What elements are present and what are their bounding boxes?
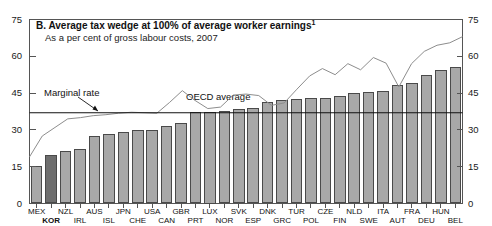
y-axis-label-right-75: 75 (468, 15, 488, 25)
y-axis-tick-0-right (457, 203, 463, 204)
bar-can (161, 126, 173, 203)
x-axis-label-kor: KOR (42, 216, 60, 225)
bar-deu (421, 75, 433, 203)
bar-aus (89, 136, 101, 204)
x-axis-tick-fin (339, 204, 340, 208)
chart-panel: 75 60 45 30 15 0 75 60 45 30 15 0 B. Ave… (0, 0, 492, 226)
x-axis-tick-nor (224, 204, 225, 208)
y-axis-label-right-0: 0 (468, 199, 488, 209)
y-axis-tick-0-left (30, 203, 36, 204)
y-axis-label-left-15: 15 (2, 162, 22, 172)
x-axis-label-gbr: GBR (172, 207, 189, 216)
x-axis-label-cze: CZE (317, 207, 333, 216)
x-axis-tick-swe (368, 204, 369, 208)
x-axis-label-aus: AUS (86, 207, 102, 216)
marginal-rate-annotation: Marginal rate (44, 87, 99, 98)
x-axis-label-fin: FIN (333, 216, 346, 225)
bar-pol (305, 98, 317, 203)
x-axis-label-nor: NOR (215, 216, 233, 225)
x-axis-tick-prt (195, 204, 196, 208)
y-axis-tick-60-left (30, 56, 36, 57)
x-axis-label-nld: NLD (346, 207, 362, 216)
bar-nld (348, 93, 360, 203)
bar-tur (291, 99, 303, 204)
y-axis-label-right-60: 60 (468, 51, 488, 61)
bar-nor (219, 111, 231, 203)
y-axis-label-left-75: 75 (2, 15, 22, 25)
x-axis-label-swe: SWE (360, 216, 378, 225)
y-axis-tick-75-left (30, 19, 36, 20)
x-axis-label-tur: TUR (288, 207, 304, 216)
x-axis-label-pol: POL (303, 216, 319, 225)
y-axis-label-left-30: 30 (2, 125, 22, 135)
y-axis-tick-15-right (457, 166, 463, 167)
x-axis-tick-can (166, 204, 167, 208)
y-axis-tick-30-right (457, 129, 463, 130)
panel-title: B. Average tax wedge at 100% of average … (36, 19, 315, 31)
y-axis-label-right-45: 45 (468, 88, 488, 98)
x-axis-tick-deu (426, 204, 427, 208)
bar-dnk (262, 102, 274, 203)
y-axis-tick-45-left (30, 93, 36, 94)
x-axis-label-grc: GRC (273, 216, 291, 225)
bar-lux (204, 112, 216, 204)
x-axis-label-isl: ISL (103, 216, 115, 225)
x-axis-tick-aut (397, 204, 398, 208)
bar-fin (334, 96, 346, 204)
bar-gbr (175, 123, 187, 204)
x-axis-tick-pol (310, 204, 311, 208)
bar-swe (363, 92, 375, 203)
bar-bel (450, 67, 462, 203)
x-axis-label-mex: MEX (28, 207, 45, 216)
x-axis-label-nzl: NZL (58, 207, 73, 216)
bar-esp (247, 108, 259, 203)
bar-nzl (60, 151, 72, 203)
x-axis-tick-irl (80, 204, 81, 208)
x-axis-label-bel: BEL (448, 216, 463, 225)
oecd-average-annotation: OECD average (186, 91, 250, 102)
x-axis-tick-kor (51, 204, 52, 208)
x-axis-tick-bel (455, 204, 456, 208)
y-axis-tick-45-right (457, 93, 463, 94)
bar-fra (406, 83, 418, 204)
y-axis-tick-75-right (457, 19, 463, 20)
bar-grc (276, 100, 288, 204)
y-axis-tick-60-right (457, 56, 463, 57)
bar-kor (45, 155, 57, 203)
x-axis-label-can: CAN (158, 216, 175, 225)
x-axis-label-hun: HUN (432, 207, 449, 216)
y-axis-label-left-0: 0 (2, 199, 22, 209)
x-axis-label-ita: ITA (377, 207, 389, 216)
x-axis-label-deu: DEU (418, 216, 435, 225)
x-axis-label-che: CHE (129, 216, 146, 225)
bar-che (132, 130, 144, 203)
x-axis-label-esp: ESP (245, 216, 261, 225)
bar-svk (233, 109, 245, 203)
bar-cze (320, 98, 332, 203)
y-axis-label-right-15: 15 (468, 162, 488, 172)
bar-mex (31, 166, 43, 204)
bar-prt (190, 112, 202, 204)
x-axis-tick-che (137, 204, 138, 208)
bar-hun (435, 70, 447, 203)
y-axis-label-left-45: 45 (2, 88, 22, 98)
x-axis-label-lux: LUX (202, 207, 218, 216)
x-axis-label-aut: AUT (390, 216, 406, 225)
bar-jpn (118, 132, 130, 204)
y-axis-tick-15-left (30, 166, 36, 167)
bar-ita (377, 91, 389, 204)
x-axis-label-jpn: JPN (116, 207, 131, 216)
panel-title-text: B. Average tax wedge at 100% of average … (36, 20, 312, 31)
x-axis-label-dnk: DNK (259, 207, 276, 216)
x-axis-tick-esp (253, 204, 254, 208)
x-axis-label-irl: IRL (74, 216, 86, 225)
bar-irl (74, 149, 86, 204)
x-axis-label-svk: SVK (231, 207, 247, 216)
x-axis-label-usa: USA (144, 207, 160, 216)
bar-aut (392, 85, 404, 204)
bar-isl (103, 134, 115, 203)
x-axis-tick-isl (108, 204, 109, 208)
panel-title-footnote-marker: 1 (312, 19, 316, 26)
x-axis-label-prt: PRT (188, 216, 204, 225)
x-axis-tick-grc (282, 204, 283, 208)
